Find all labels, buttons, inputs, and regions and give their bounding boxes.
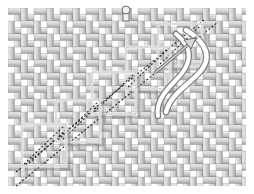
weave-strip-vertical: [138, 21, 145, 34]
weave-strip-vertical: [86, 21, 93, 34]
weave-strip-vertical: [190, 151, 197, 164]
weave-strip-horizontal: [203, 21, 216, 28]
weave-strip-horizontal: [216, 34, 229, 41]
weave-strip-vertical: [34, 125, 41, 138]
weave-strip-horizontal: [47, 125, 60, 132]
weave-strip-horizontal: [203, 73, 216, 80]
weave-strip-horizontal: [112, 60, 125, 67]
weave-strip-vertical: [112, 47, 119, 60]
weave-strip-vertical: [229, 112, 236, 125]
weave-strip-vertical: [21, 8, 28, 21]
weave-strip-vertical: [8, 125, 15, 138]
weave-strip-horizontal: [112, 34, 125, 41]
weave-strip-vertical: [151, 164, 158, 177]
weave-strip-horizontal: [34, 60, 47, 67]
weave-strip-horizontal: [73, 47, 86, 54]
weave-strip-vertical: [60, 47, 67, 60]
weave-strip-vertical: [203, 138, 210, 151]
weave-strip-vertical: [177, 164, 184, 177]
weave-strip-vertical: [99, 8, 106, 21]
weave-strip-horizontal: [86, 8, 99, 15]
weave-strip-vertical: [99, 86, 106, 99]
weave-strip-horizontal: [73, 151, 86, 158]
weave-strip-vertical: [112, 21, 119, 34]
weave-strip-horizontal: [73, 73, 86, 80]
weave-strip-vertical: [112, 99, 119, 112]
weave-strip-vertical: [138, 47, 145, 60]
weave-strip-vertical: [216, 151, 223, 164]
weave-strip-horizontal: [125, 151, 138, 158]
weave-strip-vertical: [8, 73, 15, 86]
weave-strip-horizontal: [21, 99, 34, 106]
weave-strip-vertical: [229, 34, 236, 47]
weave-strip-horizontal: [229, 99, 242, 106]
weave-strip-horizontal: [8, 34, 21, 41]
weave-strip-vertical: [47, 8, 54, 21]
weave-strip-vertical: [73, 164, 80, 177]
weave-strip-vertical: [216, 21, 223, 34]
weave-strip-vertical: [125, 164, 132, 177]
weave-strip-vertical: [34, 47, 41, 60]
weave-strip-vertical: [151, 34, 158, 47]
weave-strip-horizontal: [164, 8, 177, 15]
weave-strip-horizontal: [203, 99, 216, 106]
weave-strip-horizontal: [99, 177, 112, 184]
weave-strip-horizontal: [47, 21, 60, 28]
weave-strip-vertical: [73, 60, 80, 73]
weave-strip-vertical: [73, 86, 80, 99]
weave-strip-horizontal: [216, 138, 229, 145]
weave-strip-horizontal: [8, 8, 21, 15]
weave-strip-horizontal: [86, 164, 99, 171]
weave-strip-horizontal: [73, 177, 86, 184]
weave-strip-vertical: [99, 164, 106, 177]
weave-strip-horizontal: [151, 125, 164, 132]
weave-strip-vertical: [177, 138, 184, 151]
top-knob-marker: [122, 6, 130, 21]
weave-strip-vertical: [203, 164, 210, 177]
weave-strip-horizontal: [34, 86, 47, 93]
weave-strip-vertical: [112, 151, 119, 164]
weave-strip-horizontal: [125, 21, 138, 28]
weave-strip-horizontal: [216, 8, 229, 15]
weave-strip-vertical: [21, 34, 28, 47]
weave-strip-vertical: [229, 8, 236, 21]
weave-strip-horizontal: [47, 73, 60, 80]
weave-strip-horizontal: [229, 21, 242, 28]
weave-strip-horizontal: [190, 138, 203, 145]
weave-strip-vertical: [125, 138, 132, 151]
weave-strip-vertical: [112, 73, 119, 86]
weave-strip-vertical: [47, 34, 54, 47]
weave-strip-horizontal: [151, 177, 164, 184]
knob-head: [122, 6, 130, 14]
weave-strip-vertical: [21, 60, 28, 73]
weave-strip-horizontal: [34, 8, 47, 15]
weave-strip-horizontal: [21, 21, 34, 28]
weave-strip-horizontal: [216, 112, 229, 119]
weave-strip-horizontal: [99, 21, 112, 28]
weave-strip-horizontal: [34, 34, 47, 41]
weave-strip-vertical: [8, 47, 15, 60]
weave-strip-vertical: [47, 86, 54, 99]
weave-strip-horizontal: [177, 151, 190, 158]
weave-strip-horizontal: [216, 60, 229, 67]
weave-strip-vertical: [229, 164, 236, 177]
weave-strip-vertical: [125, 34, 132, 47]
weave-strip-horizontal: [73, 21, 86, 28]
weave-strip-horizontal: [112, 138, 125, 145]
weave-strip-vertical: [21, 86, 28, 99]
weave-strip-horizontal: [203, 125, 216, 132]
weave-strip-vertical: [229, 86, 236, 99]
weave-strip-vertical: [177, 8, 184, 21]
weave-strip-horizontal: [60, 112, 73, 119]
weave-strip-vertical: [216, 125, 223, 138]
weave-strip-vertical: [86, 125, 93, 138]
weave-strip-vertical: [47, 60, 54, 73]
weave-strip-horizontal: [138, 8, 151, 15]
weave-strip-horizontal: [190, 8, 203, 15]
weave-strip-horizontal: [125, 125, 138, 132]
weave-strip-horizontal: [60, 86, 73, 93]
weave-strip-horizontal: [164, 138, 177, 145]
weave-strip-horizontal: [60, 34, 73, 41]
weave-strip-vertical: [60, 73, 67, 86]
weave-strip-horizontal: [21, 73, 34, 80]
